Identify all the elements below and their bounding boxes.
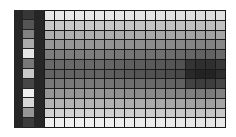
legend-swatch	[23, 89, 34, 99]
heatmap-cell	[206, 109, 215, 118]
heatmap-cell	[75, 70, 84, 79]
heatmap-cell	[135, 31, 144, 40]
heatmap-cell	[166, 31, 175, 40]
heatmap-cell	[176, 60, 185, 69]
heatmap-cell	[156, 31, 165, 40]
heatmap-cell	[196, 60, 205, 69]
heatmap-cell	[166, 99, 175, 108]
heatmap-cell	[55, 118, 64, 127]
heatmap-cell	[216, 60, 225, 69]
heatmap-cell	[55, 50, 64, 59]
heatmap-cell	[186, 118, 195, 127]
heatmap-cell	[125, 109, 134, 118]
heatmap-cell	[105, 118, 114, 127]
heatmap-cell	[105, 60, 114, 69]
heatmap-cell	[85, 79, 94, 88]
heatmap-cell	[176, 118, 185, 127]
heatmap-cell	[156, 21, 165, 30]
heatmap-cell	[176, 89, 185, 98]
heatmap-cell	[45, 60, 54, 69]
heatmap-cell	[95, 31, 104, 40]
heatmap-cell	[146, 109, 155, 118]
heatmap-cell	[95, 50, 104, 59]
heatmap-cell	[196, 79, 205, 88]
heatmap-cell	[196, 50, 205, 59]
heatmap-cell	[216, 40, 225, 49]
heatmap-chart	[14, 10, 226, 128]
heatmap-cell	[45, 109, 54, 118]
heatmap-cell	[105, 99, 114, 108]
heatmap-cell	[186, 60, 195, 69]
heatmap-cell	[156, 11, 165, 20]
heatmap-cell	[135, 109, 144, 118]
heatmap-cell	[65, 50, 74, 59]
legend-swatch	[23, 10, 34, 20]
heatmap-cell	[206, 21, 215, 30]
heatmap-cell	[85, 11, 94, 20]
heatmap-cell	[65, 11, 74, 20]
heatmap-cell	[55, 31, 64, 40]
heatmap-cell	[135, 99, 144, 108]
heatmap-cell	[206, 50, 215, 59]
heatmap-cell	[65, 99, 74, 108]
heatmap-cell	[216, 89, 225, 98]
heatmap-cell	[65, 31, 74, 40]
heatmap-cell	[105, 79, 114, 88]
heatmap-cell	[75, 89, 84, 98]
heatmap-cell	[125, 40, 134, 49]
heatmap-cell	[206, 60, 215, 69]
heatmap-cell	[135, 70, 144, 79]
heatmap-cell	[115, 21, 124, 30]
heatmap-cell	[186, 40, 195, 49]
heatmap-cell	[156, 109, 165, 118]
heatmap-cell	[95, 21, 104, 30]
heatmap-cell	[65, 118, 74, 127]
heatmap-cell	[55, 40, 64, 49]
heatmap-cell	[95, 99, 104, 108]
heatmap-cell	[186, 11, 195, 20]
heatmap-cell	[176, 40, 185, 49]
heatmap-cell	[166, 21, 175, 30]
heatmap-cell	[135, 40, 144, 49]
heatmap-cell	[196, 31, 205, 40]
heatmap-cell	[206, 40, 215, 49]
heatmap-cell	[65, 109, 74, 118]
heatmap-cell	[115, 118, 124, 127]
heatmap-cell	[125, 89, 134, 98]
heatmap-cell	[125, 50, 134, 59]
heatmap-cell	[75, 60, 84, 69]
heatmap-cell	[196, 11, 205, 20]
heatmap-cell	[176, 50, 185, 59]
heatmap-cell	[196, 89, 205, 98]
heatmap-cell	[216, 21, 225, 30]
heatmap-cell	[135, 50, 144, 59]
heatmap-cell	[206, 31, 215, 40]
heatmap-cell	[216, 50, 225, 59]
legend-swatch	[23, 108, 34, 118]
heatmap-cell	[125, 99, 134, 108]
heatmap-cell	[75, 109, 84, 118]
heatmap-cell	[196, 21, 205, 30]
heatmap-cell	[55, 99, 64, 108]
heatmap-cell	[105, 50, 114, 59]
heatmap-cell	[186, 50, 195, 59]
heatmap-cell	[55, 79, 64, 88]
heatmap-cell	[156, 118, 165, 127]
heatmap-cell	[186, 31, 195, 40]
legend-swatch	[23, 98, 34, 108]
heatmap-cell	[156, 50, 165, 59]
heatmap-cell	[216, 31, 225, 40]
heatmap-cell	[166, 109, 175, 118]
heatmap-cell	[105, 109, 114, 118]
heatmap-cell	[146, 50, 155, 59]
heatmap-cell	[75, 99, 84, 108]
heatmap-cell	[75, 31, 84, 40]
heatmap-cell	[146, 11, 155, 20]
heatmap-cell	[156, 40, 165, 49]
heatmap-cell	[146, 89, 155, 98]
legend-swatch	[23, 39, 34, 49]
heatmap-cell	[115, 40, 124, 49]
heatmap-cell	[216, 109, 225, 118]
heatmap-cell	[65, 79, 74, 88]
heatmap-cell	[55, 60, 64, 69]
